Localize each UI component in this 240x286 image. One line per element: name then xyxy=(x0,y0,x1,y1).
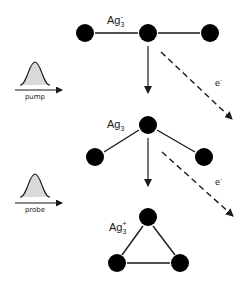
silver-atom xyxy=(139,24,157,42)
probe-label: probe xyxy=(25,206,45,214)
silver-atom xyxy=(201,24,219,42)
silver-atom xyxy=(76,24,94,42)
silver-atom xyxy=(195,148,213,166)
bond xyxy=(157,130,195,152)
electron-label: e- xyxy=(215,77,222,88)
electron-emission-arrow-icon xyxy=(161,52,232,119)
pump-label: pump xyxy=(25,93,46,101)
silver-atom xyxy=(86,148,104,166)
silver-atom xyxy=(139,208,157,226)
probe-pulse-icon xyxy=(15,174,62,203)
diagram-canvas: pump probe Ag3- e- Ag3 e- Ag3+ xyxy=(0,0,240,286)
anion-label: Ag3- xyxy=(107,13,124,28)
bond xyxy=(104,130,139,152)
neutral-bent-structure xyxy=(86,116,213,166)
silver-atom xyxy=(171,254,189,272)
cation-label: Ag3+ xyxy=(109,220,126,235)
anion-linear-structure xyxy=(76,24,219,42)
silver-atom xyxy=(108,254,126,272)
pump-pulse-icon xyxy=(15,62,62,90)
electron-label: e- xyxy=(215,176,222,187)
cation-triangle-structure xyxy=(108,208,189,272)
bond xyxy=(153,226,175,255)
silver-atom xyxy=(139,116,157,134)
neutral-label: Ag3 xyxy=(107,118,124,132)
